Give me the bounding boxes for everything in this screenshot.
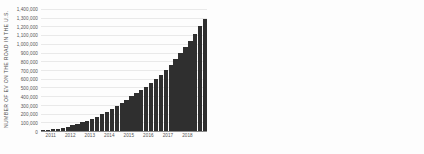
left-chart-plot-area: 1,400,0001,300,0001,200,0001,100,0001,00…	[41, 9, 207, 131]
left-chart-bar	[120, 103, 124, 131]
left-chart-y-tick-label: 100,000	[21, 121, 38, 126]
left-chart-bar	[173, 59, 177, 131]
left-chart-bar	[198, 26, 202, 131]
left-chart-x-axis-labels: 20112012201320142015201620172018	[41, 133, 207, 143]
left-chart-bar	[149, 83, 153, 131]
left-chart-bar	[193, 34, 197, 131]
ev-on-road-panel: NUMBER OF EV ON THE ROAD IN THE U.S. 1,4…	[0, 0, 212, 154]
left-chart-y-tick-label: 600,000	[21, 77, 38, 82]
dual-bar-chart-figure: NUMBER OF EV ON THE ROAD IN THE U.S. 1,4…	[0, 0, 424, 154]
left-chart-y-axis-title: NUMBER OF EV ON THE ROAD IN THE U.S.	[3, 8, 9, 130]
left-chart-bar	[164, 70, 168, 131]
left-chart-bar	[75, 124, 79, 131]
left-chart-y-tick-label: 1,300,000	[17, 15, 38, 20]
left-chart-y-tick-label: 1,400,000	[17, 7, 38, 12]
left-chart-x-axis-line	[41, 131, 207, 132]
left-chart-bar	[90, 119, 94, 131]
battery-price-panel: BATTERY PACK PRICE 116089970765057737328…	[212, 0, 424, 154]
left-chart-bar	[100, 114, 104, 131]
left-chart-x-tick-label: 2015	[124, 133, 135, 138]
left-chart-x-tick-label: 2018	[182, 133, 193, 138]
left-chart-bar	[95, 117, 99, 131]
left-chart-y-tick-label: 200,000	[21, 112, 38, 117]
left-chart-bar	[144, 87, 148, 131]
left-chart-y-tick-label: 1,200,000	[17, 24, 38, 29]
left-chart-y-tick-label: 900,000	[21, 50, 38, 55]
left-chart-y-tick-label: 700,000	[21, 68, 38, 73]
left-chart-bar	[203, 19, 207, 131]
left-chart-bar	[80, 122, 84, 131]
left-chart-bar	[134, 93, 138, 131]
left-chart-bar	[124, 100, 128, 131]
left-chart-x-tick-label: 2011	[46, 133, 56, 138]
left-chart-y-tick-label: 400,000	[21, 94, 38, 99]
left-chart-bar	[169, 65, 173, 131]
left-chart-y-tick-label: 300,000	[21, 103, 38, 108]
left-chart-bar	[188, 41, 192, 131]
left-chart-bar	[159, 75, 163, 131]
left-chart-x-tick-label: 2014	[104, 133, 115, 138]
left-chart-x-tick-label: 2013	[85, 133, 96, 138]
left-chart-bar	[85, 121, 89, 131]
left-chart-bar	[154, 79, 158, 131]
left-chart-bar	[129, 96, 133, 131]
left-chart-bar	[178, 53, 182, 131]
left-chart-bars	[41, 9, 207, 131]
left-chart-x-tick-label: 2017	[163, 133, 174, 138]
left-chart-y-tick-label: 500,000	[21, 86, 38, 91]
left-chart-y-tick-label: 0	[35, 130, 38, 135]
left-chart-bar	[139, 90, 143, 131]
left-chart-y-tick-label: 1,100,000	[17, 33, 38, 38]
left-chart-x-tick-label: 2012	[65, 133, 76, 138]
left-chart-bar	[110, 109, 114, 131]
left-chart-bar	[115, 106, 119, 131]
left-chart-y-tick-label: 800,000	[21, 59, 38, 64]
left-chart-bar	[183, 47, 187, 131]
left-chart-y-tick-label: 1,000,000	[17, 42, 38, 47]
left-chart-bar	[105, 112, 109, 131]
left-chart-x-tick-label: 2016	[143, 133, 154, 138]
